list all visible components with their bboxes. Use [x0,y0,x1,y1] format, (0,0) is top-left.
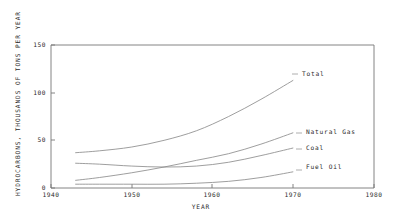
series-label-total: Total [302,70,325,77]
series-label-fuel-oil: Fuel Oil [306,163,342,170]
series-line-total [75,80,293,152]
series-label-natural-gas: Natural Gas [306,128,356,135]
series-line-natural-gas [75,133,293,181]
series-line-fuel-oil [75,172,293,184]
series-line-coal [75,148,293,167]
chart-container: HYDROCARBONS, THOUSANDS OF TONS PER YEAR… [0,0,402,216]
plot-area [0,0,402,216]
series-label-coal: Coal [306,144,324,151]
